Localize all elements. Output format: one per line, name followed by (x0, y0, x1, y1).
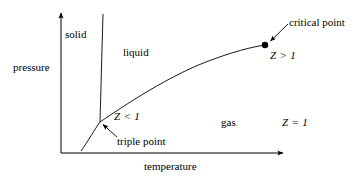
fusion-curve (100, 14, 103, 122)
region-label-solid: solid (65, 29, 86, 40)
critical-point-leader-arrow (271, 24, 289, 41)
region-label-liquid: liquid (123, 47, 149, 58)
x-axis-title: temperature (144, 161, 197, 172)
compressibility-label-greater-than-one: Z > 1 (270, 50, 296, 61)
triple-point-label: triple point (117, 136, 166, 147)
triple-point-leader-arrow (103, 125, 117, 138)
phase-diagram-figure: pressure temperature solid liquid gas cr… (0, 0, 363, 180)
y-axis-title: pressure (13, 62, 50, 73)
critical-point-label: critical point (289, 17, 345, 28)
sublimation-curve (81, 122, 100, 151)
region-label-gas: gas (221, 117, 236, 128)
compressibility-label-less-than-one: Z < 1 (114, 111, 140, 122)
critical-point-marker (262, 42, 268, 48)
compressibility-label-equal-one: Z = 1 (282, 117, 308, 128)
